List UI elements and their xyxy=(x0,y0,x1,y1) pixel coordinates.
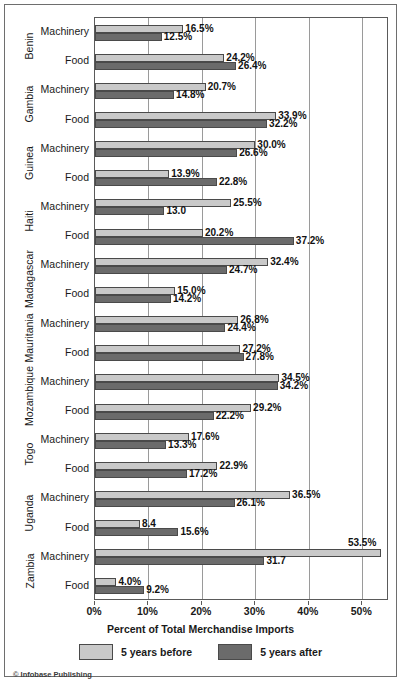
bar-value-label: 22.8% xyxy=(219,178,247,186)
legend-item-after: 5 years after xyxy=(218,644,322,660)
bar-gambia-food-after xyxy=(95,120,267,128)
row-label-food: Food xyxy=(35,580,89,591)
bar-benin-food-after xyxy=(95,62,236,70)
bar-value-label: 26.1% xyxy=(237,499,265,507)
bar-value-label: 17.2% xyxy=(189,470,217,478)
country-label-text: Benin xyxy=(23,33,35,60)
row-label-machinery: Machinery xyxy=(35,318,89,329)
bar-value-label: 20.2% xyxy=(205,229,233,237)
gridline xyxy=(362,18,363,599)
bar-value-label: 29.2% xyxy=(253,404,281,412)
bar-madagascar-machinery-after xyxy=(95,266,227,274)
plot-area: 16.5%12.5%24.2%26.4%20.7%14.8%33.9%32.2%… xyxy=(94,17,388,600)
x-tick-label: 50% xyxy=(351,605,372,617)
bar-value-label: 27.8% xyxy=(246,353,274,361)
bar-value-label: 22.9% xyxy=(219,462,247,470)
bar-guinea-machinery-after xyxy=(95,149,237,157)
row-label-machinery: Machinery xyxy=(35,26,89,37)
row-label-machinery: Machinery xyxy=(35,376,89,387)
bar-haiti-machinery-before xyxy=(95,199,231,207)
bar-value-label: 13.0 xyxy=(166,207,185,215)
country-label-text: Gambia xyxy=(23,86,35,123)
bar-value-label: 13.9% xyxy=(171,170,199,178)
bar-gambia-machinery-after xyxy=(95,91,174,99)
row-label-food: Food xyxy=(35,172,89,183)
legend-label-before: 5 years before xyxy=(121,646,192,658)
legend: 5 years before 5 years after xyxy=(5,644,396,660)
x-tick-label: 20% xyxy=(190,605,211,617)
bar-value-label: 14.8% xyxy=(176,91,204,99)
copyright-credit: © Infobase Publishing xyxy=(13,670,92,679)
bar-togo-food-after xyxy=(95,470,187,478)
bar-zambia-machinery-after xyxy=(95,557,264,565)
bar-guinea-machinery-before xyxy=(95,141,255,149)
bar-value-label: 26.6% xyxy=(239,149,267,157)
row-label-food: Food xyxy=(35,230,89,241)
gridline xyxy=(255,18,256,599)
bar-haiti-machinery-after xyxy=(95,207,164,215)
bar-mauritania-food-after xyxy=(95,353,244,361)
row-label-food: Food xyxy=(35,522,89,533)
bar-uganda-machinery-after xyxy=(95,499,235,507)
bar-mozambique-food-after xyxy=(95,412,214,420)
bar-gambia-food-before xyxy=(95,112,276,120)
row-label-machinery: Machinery xyxy=(35,143,89,154)
bar-uganda-food-before xyxy=(95,520,140,528)
bar-value-label: 9.2% xyxy=(146,586,169,594)
bar-mauritania-food-before xyxy=(95,345,240,353)
row-label-machinery: Machinery xyxy=(35,434,89,445)
row-label-food: Food xyxy=(35,405,89,416)
bar-guinea-food-before xyxy=(95,170,169,178)
bar-value-label: 26.4% xyxy=(238,62,266,70)
country-label-text: Guinea xyxy=(23,146,35,180)
row-label-machinery: Machinery xyxy=(35,551,89,562)
country-label-text: Haiti xyxy=(23,211,35,232)
x-tick-label: 40% xyxy=(297,605,318,617)
x-tick-label: 30% xyxy=(244,605,265,617)
bar-haiti-food-after xyxy=(95,237,294,245)
bar-value-label: 14.2% xyxy=(173,295,201,303)
bar-value-label: 24.7% xyxy=(229,266,257,274)
row-label-machinery: Machinery xyxy=(35,84,89,95)
bar-value-label: 31.7 xyxy=(266,557,285,565)
bar-guinea-food-after xyxy=(95,178,217,186)
bar-madagascar-food-before xyxy=(95,287,175,295)
legend-swatch-before xyxy=(79,644,113,660)
legend-item-before: 5 years before xyxy=(79,644,192,660)
row-label-food: Food xyxy=(35,114,89,125)
country-label-text: Togo xyxy=(23,443,35,466)
country-label-text: Mauritania xyxy=(23,313,35,362)
bar-zambia-food-after xyxy=(95,586,144,594)
bar-value-label: 53.5% xyxy=(348,539,376,547)
bar-value-label: 25.5% xyxy=(233,199,261,207)
bar-value-label: 4.0% xyxy=(118,578,141,586)
chart-frame: BeninGambiaGuineaHaitiMadagascarMauritan… xyxy=(4,4,397,677)
x-axis-title: Percent of Total Merchandise Imports xyxy=(5,623,396,635)
bar-value-label: 24.4% xyxy=(227,324,255,332)
bar-mauritania-machinery-before xyxy=(95,316,238,324)
row-label-food: Food xyxy=(35,347,89,358)
row-label-food: Food xyxy=(35,288,89,299)
bar-value-label: 8.4 xyxy=(142,520,156,528)
bar-value-label: 32.4% xyxy=(270,258,298,266)
x-tick-label: 10% xyxy=(137,605,158,617)
bar-benin-machinery-after xyxy=(95,33,162,41)
bar-value-label: 12.5% xyxy=(164,33,192,41)
country-label-text: Madagascar xyxy=(23,250,35,308)
gridline xyxy=(148,18,149,599)
bar-mozambique-machinery-after xyxy=(95,382,278,390)
bar-value-label: 37.2% xyxy=(296,237,324,245)
gridline xyxy=(202,18,203,599)
bar-haiti-food-before xyxy=(95,229,203,237)
bar-value-label: 36.5% xyxy=(292,491,320,499)
bar-value-label: 15.6% xyxy=(180,528,208,536)
row-label-machinery: Machinery xyxy=(35,492,89,503)
bar-value-label: 32.2% xyxy=(269,120,297,128)
country-label-text: Zambia xyxy=(23,553,35,588)
country-label-text: Uganda xyxy=(23,494,35,531)
bar-madagascar-food-after xyxy=(95,295,171,303)
bar-benin-food-before xyxy=(95,54,224,62)
gridline xyxy=(309,18,310,599)
legend-label-after: 5 years after xyxy=(260,646,322,658)
x-axis-ticks: 0%10%20%30%40%50% xyxy=(94,601,388,617)
